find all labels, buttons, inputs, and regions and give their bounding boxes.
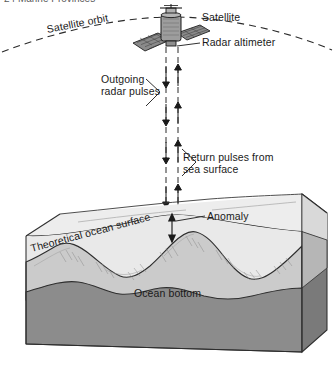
radar-altimeter-icon [166, 41, 176, 46]
return-pulse-beam [175, 47, 182, 212]
ocean-block [26, 194, 327, 352]
label-outgoing-pulses: Outgoing radar pulses [101, 74, 163, 97]
label-anomaly: Anomaly [207, 211, 249, 223]
satellite-altimetry-figure: 24 Marine Provinces [0, 0, 334, 370]
label-satellite: Satellite [202, 12, 240, 24]
satellite-body [161, 12, 181, 41]
leader-radar-altimeter [177, 43, 200, 46]
label-ocean-bottom: Ocean bottom [134, 288, 201, 300]
label-radar-altimeter: Radar altimeter [202, 37, 275, 49]
diagram-canvas [0, 0, 334, 370]
satellite-icon [133, 4, 210, 51]
outgoing-pulse-beam [163, 47, 170, 212]
label-return-pulses: Return pulses from sea surface [183, 152, 287, 175]
antenna-icon [160, 4, 182, 13]
